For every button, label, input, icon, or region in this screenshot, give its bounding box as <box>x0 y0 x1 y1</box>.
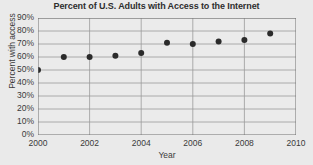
plot-area: 0%10%20%30%40%50%60%70%80%90% 2000200220… <box>38 18 296 135</box>
x-tick-label: 2008 <box>224 138 264 148</box>
chart-figure: Percent of U.S. Adults with Access to th… <box>0 0 313 165</box>
y-tick-label: 90% <box>2 13 34 22</box>
x-tick-label: 2004 <box>121 138 161 148</box>
x-tick-label: 2006 <box>173 138 213 148</box>
x-tick-label: 2000 <box>18 138 58 148</box>
chart-title: Percent of U.S. Adults with Access to th… <box>0 1 313 11</box>
y-tick-label: 50% <box>2 65 34 74</box>
y-tick-label: 20% <box>2 104 34 113</box>
x-tick-label: 2002 <box>70 138 110 148</box>
y-tick-label: 80% <box>2 26 34 35</box>
x-axis-label: Year <box>38 150 296 160</box>
y-tick-labels: 0%10%20%30%40%50%60%70%80%90% <box>38 18 296 135</box>
x-tick-label: 2010 <box>276 138 313 148</box>
y-tick-label: 10% <box>2 117 34 126</box>
y-tick-label: 30% <box>2 91 34 100</box>
y-tick-label: 60% <box>2 52 34 61</box>
y-tick-label: 40% <box>2 78 34 87</box>
y-tick-label: 70% <box>2 39 34 48</box>
